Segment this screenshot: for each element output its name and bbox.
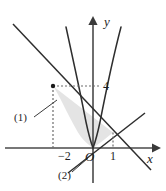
y-axis-label: y — [104, 15, 110, 28]
x-axis-label: x — [147, 152, 153, 165]
y-tick-label-four: 4 — [103, 80, 109, 92]
x-axis-arrow-icon — [152, 143, 161, 152]
x-tick-label-one: 1 — [110, 150, 116, 162]
origin-label: O — [85, 150, 94, 163]
intersection-point-left — [51, 84, 55, 88]
curve-label-1: (1) — [14, 112, 27, 123]
x-tick-label-negative-two: −2 — [58, 150, 71, 162]
shaded-region — [53, 86, 113, 148]
figure-container: y x O −2 1 4 (1) (2) — [0, 0, 166, 191]
coordinate-plot-svg — [0, 0, 166, 191]
y-axis-arrow-icon — [88, 16, 97, 25]
curve-label-2: (2) — [58, 170, 71, 181]
